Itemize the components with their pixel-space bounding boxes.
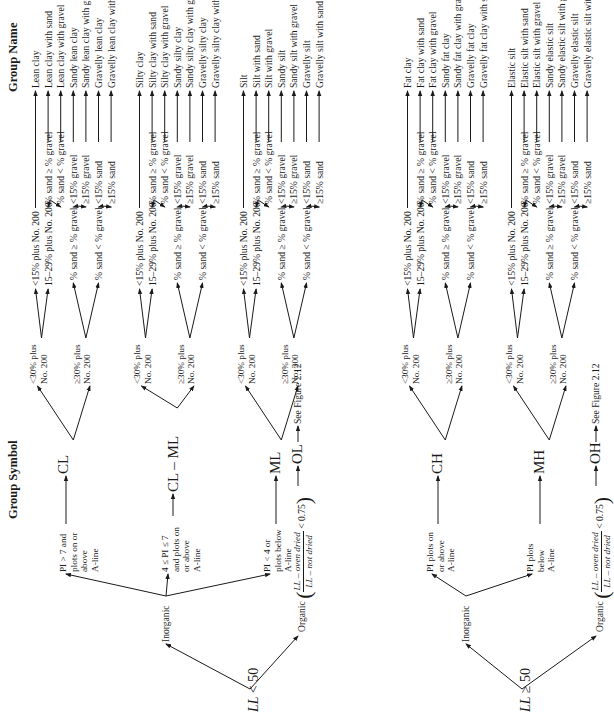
see-figure-oh: See Figure 2.12	[590, 364, 601, 425]
group-name-1-0: Silty clay	[134, 51, 145, 88]
level1-lt30-line1: <30% plus	[236, 344, 247, 384]
level1-ge30-line1: ≥30% plus	[444, 345, 455, 385]
level1-lt30-line2: No. 200	[143, 344, 154, 384]
level3-cond-1-4: ≥15% gravel	[184, 155, 195, 204]
group-name-0-1: Lean clay with sand	[43, 11, 54, 88]
level3-cond-0-5: <15% sand	[93, 161, 104, 204]
group-name-2-0: Silt	[238, 75, 249, 88]
symbol-mh: MH	[532, 450, 547, 474]
group-name-2-5: Gravelly silt	[301, 40, 312, 88]
level2-sand-lt-3: % sand < % gravel	[465, 207, 476, 280]
symbol-oh: OH	[588, 442, 603, 464]
level2-lt15-4: <15% plus No. 200	[506, 211, 517, 286]
level3-cond-4-5: <15% sand	[569, 161, 580, 204]
group-name-1-2: Silty clay with gravel	[159, 6, 170, 88]
level1-ge30-4: ≥30% plusNo. 200	[548, 345, 569, 385]
level3-cond-3-5: <15% sand	[465, 161, 476, 204]
inorganic-label-ll-ge50: Inorganic	[460, 605, 471, 642]
level2-15-29-4: 15–29% plus No. 200	[519, 202, 530, 286]
level1-lt30-line2: No. 200	[247, 344, 258, 384]
group-name-2-2: Silt with gravel	[263, 29, 274, 88]
level1-ge30-3: ≥30% plusNo. 200	[444, 345, 465, 385]
level3-cond-1-5: <15% sand	[197, 161, 208, 204]
level1-lt30-line1: <30% plus	[28, 344, 39, 384]
level2-lt15-0: <15% plus No. 200	[30, 211, 41, 286]
group-name-0-4: Sandy lean clay with gravel	[80, 0, 91, 88]
level3-cond-0-6: ≥15% sand	[106, 161, 117, 204]
level3-cond-3-1: % sand ≥ % gravel	[415, 132, 426, 204]
root-ll-ge-50: LL ≥ 50	[520, 668, 531, 712]
group-name-4-1: Elastic silt with sand	[519, 8, 530, 88]
level3-cond-0-3: <15% gravel	[68, 155, 79, 204]
symbol-ml: ML	[268, 452, 283, 475]
level2-sand-lt-0: % sand < % gravel	[93, 207, 104, 280]
group-name-0-0: Lean clay	[30, 50, 41, 88]
organic-label-ll-ge50: Organic (LL – oven driedLL – not dried <…	[590, 497, 612, 632]
level3-cond-1-1: % sand ≥ % gravel	[147, 132, 158, 204]
level1-lt30-2: <30% plusNo. 200	[236, 344, 257, 384]
pi-condition-clml: 4 ≤ PI ≤ 7and plots onor aboveA-line	[160, 527, 202, 572]
level2-15-29-1: 15–29% plus No. 200	[147, 202, 158, 286]
level3-cond-4-3: <15% gravel	[544, 155, 555, 204]
level1-lt30-line1: <30% plus	[504, 344, 515, 384]
level1-ge30-line1: ≥30% plus	[72, 345, 83, 385]
level3-cond-3-3: <15% gravel	[440, 155, 451, 204]
level3-cond-2-4: ≥15% gravel	[288, 155, 299, 204]
group-name-0-5: Gravelly lean clay	[93, 18, 104, 88]
level3-cond-1-3: <15% gravel	[172, 155, 183, 204]
group-name-1-1: Silty clay with sand	[147, 12, 158, 88]
level3-cond-2-6: ≥15% sand	[314, 161, 325, 204]
group-name-3-3: Sandy fat clay	[440, 33, 451, 88]
level2-sand-ge-3: % sand ≥ % gravel	[440, 208, 451, 280]
organic-label-ll50: Organic (LL – oven driedLL – not dried <…	[292, 497, 314, 632]
level2-sand-ge-0: % sand ≥ % gravel	[68, 208, 79, 280]
level2-lt15-2: <15% plus No. 200	[238, 211, 249, 286]
group-name-0-6: Gravelly lean clay with sand	[106, 0, 117, 88]
level2-lt15-3: <15% plus No. 200	[402, 211, 413, 286]
level1-ge30-line2: No. 200	[186, 345, 197, 385]
level3-cond-3-2: % sand < % gravel	[427, 131, 438, 204]
root-ll-less-50: LL < 50	[248, 668, 259, 712]
level3-cond-4-2: % sand < % gravel	[531, 131, 542, 204]
level3-cond-4-1: % sand ≥ % gravel	[519, 132, 530, 204]
group-name-4-6: Gravelly elastic silt with sand	[582, 0, 593, 88]
group-symbol-header: Group Symbol	[8, 440, 19, 519]
level1-ge30-2: ≥30% plusNo. 200	[280, 345, 301, 385]
level1-lt30-line2: No. 200	[411, 344, 422, 384]
symbol-cl: CL	[56, 455, 71, 474]
level2-sand-ge-2: % sand ≥ % gravel	[276, 208, 287, 280]
group-name-4-5: Gravelly elastic silt	[569, 13, 580, 88]
level2-sand-lt-2: % sand < % gravel	[301, 207, 312, 280]
level2-lt15-1: <15% plus No. 200	[134, 211, 145, 286]
level3-cond-0-4: ≥15% gravel	[80, 155, 91, 204]
level3-cond-4-6: ≥15% sand	[582, 161, 593, 204]
level1-ge30-line2: No. 200	[290, 345, 301, 385]
symbol-clml: CL – ML	[166, 436, 181, 492]
level2-15-29-3: 15–29% plus No. 200	[415, 202, 426, 286]
level1-ge30-line1: ≥30% plus	[176, 345, 187, 385]
level3-cond-4-4: ≥15% gravel	[556, 155, 567, 204]
group-name-1-4: Sandy silty clay with gravel	[184, 0, 195, 88]
level1-ge30-line1: ≥30% plus	[280, 345, 291, 385]
group-name-2-3: Sandy silt	[276, 50, 287, 88]
level1-lt30-line1: <30% plus	[400, 344, 411, 384]
group-name-1-5: Gravelly silty clay	[197, 17, 208, 88]
level3-cond-3-4: ≥15% gravel	[452, 155, 463, 204]
level3-cond-2-2: % sand < % gravel	[263, 131, 274, 204]
pi-condition-ch: PI plots onor aboveA-line	[425, 532, 457, 572]
inorganic-label-ll50: Inorganic	[160, 605, 171, 642]
group-name-0-3: Sandy lean clay	[68, 27, 79, 88]
group-name-3-4: Sandy fat clay with gravel	[452, 0, 463, 88]
level3-cond-2-3: <15% gravel	[276, 155, 287, 204]
group-name-4-0: Elastic silt	[506, 48, 517, 88]
level1-ge30-1: ≥30% plusNo. 200	[176, 345, 197, 385]
level2-sand-lt-4: % sand < % gravel	[569, 207, 580, 280]
level1-ge30-line2: No. 200	[558, 345, 569, 385]
level3-cond-1-6: ≥15% sand	[210, 161, 221, 204]
level1-lt30-3: <30% plusNo. 200	[400, 344, 421, 384]
level3-cond-3-6: ≥15% sand	[478, 161, 489, 204]
level1-ge30-line2: No. 200	[454, 345, 465, 385]
symbol-ch: CH	[430, 453, 445, 474]
pi-condition-mh: PI plotsbelowA-line	[525, 544, 557, 572]
symbol-ol: OL	[290, 444, 305, 464]
